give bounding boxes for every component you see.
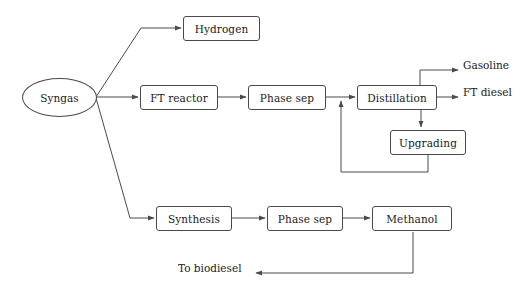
- node-upgrading[interactable]: Upgrading: [390, 130, 466, 155]
- node-ft-reactor-label: FT reactor: [150, 92, 208, 104]
- node-syngas[interactable]: Syngas: [22, 78, 97, 117]
- node-distillation[interactable]: Distillation: [357, 85, 437, 110]
- process-flow-diagram: Syngas Hydrogen FT reactor Phase sep Dis…: [0, 0, 522, 298]
- node-upgrading-label: Upgrading: [399, 137, 457, 149]
- label-ft-diesel: FT diesel: [463, 87, 512, 98]
- node-syngas-label: Syngas: [40, 92, 78, 104]
- edge-methanol-to-biodiesel: [256, 232, 413, 273]
- node-synthesis[interactable]: Synthesis: [156, 206, 232, 231]
- node-methanol[interactable]: Methanol: [372, 206, 452, 231]
- label-to-biodiesel: To biodiesel: [178, 263, 242, 274]
- node-phase-sep-1[interactable]: Phase sep: [248, 85, 326, 110]
- node-ft-reactor[interactable]: FT reactor: [140, 85, 218, 110]
- node-methanol-label: Methanol: [386, 213, 437, 225]
- node-distillation-label: Distillation: [367, 92, 427, 104]
- node-synthesis-label: Synthesis: [168, 213, 220, 225]
- edge-syngas-to-synthesis: [96, 98, 154, 218]
- node-hydrogen[interactable]: Hydrogen: [183, 16, 260, 41]
- edge-distillation-to-gasoline: [420, 70, 458, 85]
- node-phase-sep-2-label: Phase sep: [278, 213, 332, 225]
- node-phase-sep-2[interactable]: Phase sep: [267, 206, 343, 231]
- node-hydrogen-label: Hydrogen: [195, 23, 249, 35]
- node-phase-sep-1-label: Phase sep: [260, 92, 314, 104]
- label-gasoline: Gasoline: [463, 60, 509, 71]
